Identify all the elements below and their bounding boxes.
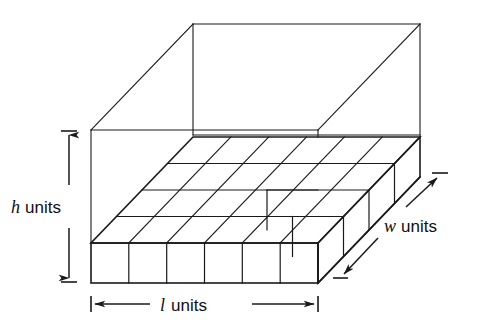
height-label: hunits xyxy=(11,197,61,217)
wire-right-receding-top-edge xyxy=(318,24,420,130)
height-dimension-arrow xyxy=(61,131,77,282)
figure-container: hunits lunits wunits xyxy=(0,0,477,335)
length-label: lunits xyxy=(160,295,207,315)
wireframe-upper-box xyxy=(91,24,420,243)
width-arrow-upper xyxy=(406,178,437,207)
wire-left-receding-top-edge xyxy=(91,24,193,130)
length-unit-text: units xyxy=(171,296,207,315)
length-symbol: l xyxy=(160,295,165,315)
height-unit-text: units xyxy=(25,198,61,217)
prism-diagram: hunits lunits wunits xyxy=(0,0,477,335)
slab-right-face xyxy=(318,137,420,283)
width-unit-text: units xyxy=(401,217,437,236)
slab-front-face xyxy=(91,243,318,283)
width-symbol: w xyxy=(384,216,396,236)
width-label: wunits xyxy=(384,216,437,236)
width-arrow-lower xyxy=(344,238,378,274)
height-symbol: h xyxy=(11,197,20,217)
slab-top-face-grid xyxy=(91,137,420,243)
